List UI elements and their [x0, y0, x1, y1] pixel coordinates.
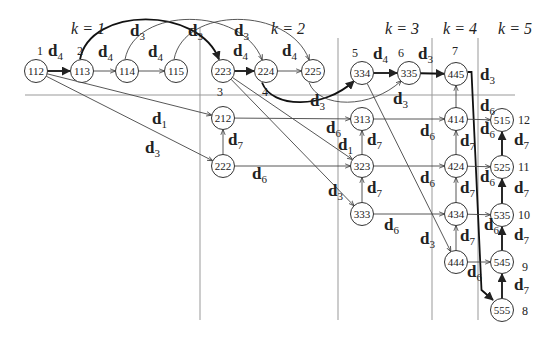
node-114: 114 — [116, 60, 139, 83]
edge-label-d3: d3 — [310, 91, 325, 112]
node-414: 414 — [445, 108, 468, 131]
edge-label-d7: d7 — [460, 178, 475, 199]
edge-label-d7: d7 — [514, 225, 529, 246]
edge-label-d7: d7 — [460, 226, 475, 247]
node-label: 113 — [74, 65, 91, 77]
node-545: 5459 — [491, 251, 529, 275]
node-label: 313 — [354, 113, 371, 125]
node-334: 3345 — [351, 46, 374, 85]
node-424: 424 — [445, 155, 468, 178]
edge-label-d3: d3 — [418, 44, 433, 65]
edge-label-d6: d6 — [420, 168, 435, 189]
node-224: 2244 — [255, 60, 278, 100]
edge-label-d7: d7 — [228, 130, 243, 151]
node-label: 222 — [215, 160, 232, 172]
node-115: 115 — [165, 60, 188, 83]
edge-label-d7: d7 — [367, 130, 382, 151]
node-label: 424 — [448, 160, 465, 172]
edge-334-to-444 — [367, 83, 451, 251]
nodes: 1121113211411522332244225334533564457212… — [25, 44, 531, 322]
node-index-label: 3 — [217, 85, 223, 99]
node-333: 333 — [351, 203, 374, 226]
node-index-label: 12 — [518, 113, 530, 127]
node-label: 334 — [354, 67, 371, 79]
edge-label-d7: d7 — [367, 178, 382, 199]
node-index-label: 11 — [518, 160, 530, 174]
node-label: 414 — [448, 113, 465, 125]
node-label: 515 — [494, 114, 511, 126]
node-label: 333 — [354, 208, 371, 220]
node-label: 535 — [494, 209, 511, 221]
stage-label-k3: k = 3 — [385, 20, 419, 37]
node-label: 555 — [494, 304, 511, 316]
edge-label-d6: d6 — [384, 215, 399, 236]
node-label: 115 — [168, 65, 185, 77]
stage-label-k5: k = 5 — [498, 20, 532, 37]
node-index-label: 7 — [452, 44, 458, 58]
node-445: 4457 — [445, 44, 468, 86]
edge-label-d1: d1 — [338, 135, 353, 156]
edge-335-to-445 — [420, 73, 444, 74]
node-label: 445 — [448, 68, 465, 80]
edge-label-d3: d3 — [145, 138, 160, 159]
edge-label-d4: d4 — [373, 44, 388, 65]
edge-label-d7: d7 — [514, 275, 529, 296]
edge-label-d4: d4 — [233, 41, 248, 62]
stage-label-k4: k = 4 — [443, 20, 477, 37]
edges — [46, 19, 502, 300]
node-label: 444 — [448, 256, 465, 268]
node-index-label: 5 — [352, 46, 358, 60]
stage-label-k1: k = 1 — [71, 20, 105, 37]
node-label: 225 — [305, 65, 322, 77]
edge-224-to-334 — [262, 81, 354, 102]
node-212: 212 — [212, 107, 235, 130]
edge-label-d3: d3 — [188, 21, 203, 42]
node-313: 313 — [351, 108, 374, 131]
node-323: 323 — [351, 155, 374, 178]
edge-112-to-222 — [46, 76, 212, 160]
node-index-label: 1 — [37, 44, 43, 58]
node-555: 5558 — [491, 299, 529, 322]
node-index-label: 6 — [398, 46, 404, 60]
edge-label-d6: d6 — [480, 96, 495, 117]
edge-label-d4: d4 — [48, 41, 63, 62]
node-label: 434 — [448, 208, 465, 220]
node-112: 1121 — [25, 44, 48, 83]
edge-label-d3: d3 — [234, 21, 249, 42]
edge-label-d1: d1 — [152, 109, 167, 130]
edge-label-d3: d3 — [328, 181, 343, 202]
node-434: 434 — [445, 203, 468, 226]
node-index-label: 10 — [518, 208, 530, 222]
node-223: 2233 — [212, 60, 235, 100]
edge-label-d3: d3 — [420, 229, 435, 250]
node-label: 525 — [494, 161, 511, 173]
node-index-label: 4 — [262, 85, 268, 99]
edge-label-d4: d4 — [282, 41, 297, 62]
node-222: 222 — [212, 155, 235, 178]
node-113: 1132 — [71, 44, 94, 83]
edge-label-d7: d7 — [514, 178, 529, 199]
node-index-label: 9 — [522, 260, 528, 274]
node-label: 223 — [215, 65, 232, 77]
stage-label-k2: k = 2 — [271, 20, 305, 37]
edge-label-d6: d6 — [420, 121, 435, 142]
node-label: 224 — [258, 65, 275, 77]
node-444: 444 — [445, 251, 468, 274]
edge-label-d4: d4 — [98, 42, 113, 63]
state-transition-diagram: 1121113211411522332244225334533564457212… — [0, 0, 550, 338]
node-225: 225 — [302, 60, 325, 83]
node-label: 545 — [494, 256, 511, 268]
edge-label-d6: d6 — [252, 164, 267, 185]
edge-label-d3: d3 — [130, 21, 145, 42]
node-label: 114 — [119, 65, 136, 77]
node-label: 323 — [354, 160, 371, 172]
edge-label-d3: d3 — [393, 89, 408, 110]
node-515: 51512 — [491, 109, 531, 132]
node-index-label: 2 — [77, 44, 83, 58]
edge-label-d4: d4 — [148, 42, 163, 63]
node-label: 212 — [215, 112, 232, 124]
node-525: 52511 — [491, 156, 530, 179]
node-label: 112 — [28, 65, 44, 77]
edge-label-d7: d7 — [514, 130, 529, 151]
node-label: 335 — [401, 67, 418, 79]
